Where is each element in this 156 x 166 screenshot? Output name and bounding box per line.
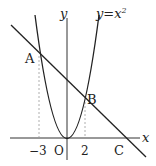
y-axis-label: y — [59, 6, 68, 21]
tick-2: 2 — [81, 144, 89, 158]
tick-neg3: −3 — [29, 144, 47, 158]
curve-label: y=x2 — [95, 6, 127, 21]
origin-label: O — [54, 144, 64, 158]
point-b-label: B — [87, 92, 97, 107]
point-a-label: A — [24, 51, 35, 66]
point-c-label: C — [114, 143, 124, 158]
x-axis-label: x — [142, 130, 150, 145]
line-abc — [11, 25, 146, 157]
coordinate-diagram: y y=x2 A B C x O −3 2 — [0, 0, 156, 166]
